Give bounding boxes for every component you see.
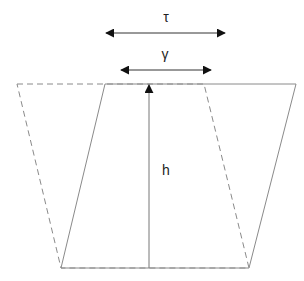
gamma-label: γ: [162, 46, 169, 62]
original-shape-dashed: [17, 84, 249, 268]
shear-diagram: τ γ h: [0, 0, 304, 281]
deformed-shape-solid: [61, 84, 296, 268]
tau-label: τ: [163, 9, 169, 25]
diagram-canvas: τ γ h: [0, 0, 304, 281]
height-label: h: [162, 162, 170, 178]
